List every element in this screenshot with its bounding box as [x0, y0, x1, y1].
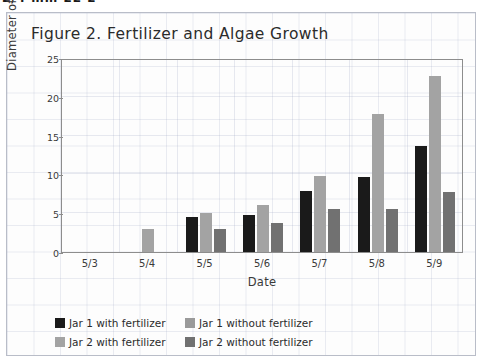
vertical-gridline	[119, 60, 120, 252]
bar	[372, 114, 384, 252]
bar	[186, 217, 198, 252]
legend-label: Jar 2 without fertilizer	[199, 336, 313, 348]
bar	[314, 176, 326, 252]
horizontal-gridline	[62, 96, 462, 97]
x-tick-label: 5/8	[369, 258, 385, 269]
legend-item: Jar 2 with fertilizer	[55, 336, 185, 348]
chart-legend: Jar 1 with fertilizerJar 1 without ferti…	[55, 317, 365, 348]
bar	[443, 192, 455, 252]
bar	[415, 146, 427, 252]
legend-label: Jar 2 with fertilizer	[69, 336, 165, 348]
y-tick-label: 5	[35, 209, 59, 220]
y-tick-label: 25	[35, 54, 59, 65]
legend-swatch-icon	[185, 318, 195, 328]
legend-label: Jar 1 with fertilizer	[69, 317, 165, 329]
horizontal-gridline	[62, 135, 462, 136]
chart-title: Figure 2. Fertilizer and Algae Growth	[31, 25, 329, 43]
top-cutoff-strip: 2/4 mm 22 2	[0, 0, 486, 12]
vertical-gridline	[292, 60, 293, 252]
legend-swatch-icon	[55, 337, 65, 347]
legend-swatch-icon	[55, 318, 65, 328]
bar	[429, 76, 441, 252]
vertical-gridline	[234, 60, 235, 252]
x-tick-label: 5/5	[197, 258, 213, 269]
legend-item: Jar 2 without fertilizer	[185, 336, 355, 348]
legend-item: Jar 1 with fertilizer	[55, 317, 185, 329]
y-tick-label: 10	[35, 170, 59, 181]
y-axis-label: Diameter of algae (mm)	[5, 0, 19, 71]
bar	[386, 209, 398, 252]
legend-swatch-icon	[185, 337, 195, 347]
bar	[200, 213, 212, 252]
vertical-gridline	[177, 60, 178, 252]
plot-area	[61, 59, 463, 253]
vertical-gridline	[349, 60, 350, 252]
y-tick-label: 0	[35, 248, 59, 259]
figure-card: Figure 2. Fertilizer and Algae Growth Di…	[6, 12, 476, 356]
y-axis-ticks: 0510152025	[31, 59, 59, 253]
y-tick-mark	[59, 253, 63, 254]
bar	[358, 177, 370, 252]
x-tick-label: 5/7	[311, 258, 327, 269]
bar	[243, 215, 255, 252]
vertical-gridline	[407, 60, 408, 252]
bar	[142, 229, 154, 252]
x-tick-label: 5/4	[139, 258, 155, 269]
x-tick-label: 5/3	[82, 258, 98, 269]
legend-item: Jar 1 without fertilizer	[185, 317, 355, 329]
x-tick-label: 5/6	[254, 258, 270, 269]
bar	[271, 223, 283, 252]
bar	[257, 205, 269, 252]
bar	[300, 191, 312, 252]
legend-label: Jar 1 without fertilizer	[199, 317, 313, 329]
bar	[328, 209, 340, 252]
y-tick-label: 20	[35, 92, 59, 103]
x-axis-ticks: 5/35/45/55/65/75/85/9	[61, 255, 463, 273]
horizontal-gridline	[62, 173, 462, 174]
x-tick-label: 5/9	[426, 258, 442, 269]
bar	[214, 229, 226, 252]
y-tick-label: 15	[35, 131, 59, 142]
x-axis-label: Date	[61, 275, 463, 289]
